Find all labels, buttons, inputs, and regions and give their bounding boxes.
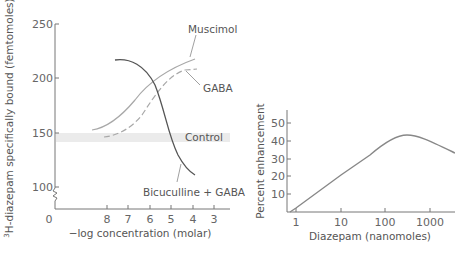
left-x-origin-label: 0	[46, 213, 53, 226]
right-x-tick-1: 1	[293, 216, 300, 229]
right-y-tick-50: 50	[271, 117, 285, 130]
right-y-tick-30: 30	[271, 153, 285, 166]
left-y-tick-250: 250	[32, 18, 53, 31]
right-x-axis-label: Diazepam (nanomoles)	[309, 230, 431, 242]
axis-break-icon	[53, 188, 57, 209]
diazepam-enhancement-curve	[290, 135, 455, 212]
right-x-tick-100: 100	[375, 216, 396, 229]
left-x-tick-6: 6	[147, 213, 154, 226]
left-y-tick-200: 200	[32, 72, 53, 85]
left-y-tick-100: 100	[32, 181, 53, 194]
bicuculline-gaba-label: Bicuculline + GABA	[143, 186, 246, 198]
gaba-curve	[104, 69, 197, 137]
right-x-tick-1000: 1000	[416, 216, 444, 229]
gaba-leader	[186, 71, 200, 85]
left-y-axis-label: 3H-diazepam specifically bound (femtomol…	[3, 0, 15, 238]
left-x-ticks	[107, 205, 214, 209]
left-x-axis-label: −log concentration (molar)	[69, 227, 212, 239]
left-x-tick-5: 5	[168, 213, 175, 226]
right-y-tick-20: 20	[271, 170, 285, 183]
muscimol-leader	[190, 35, 196, 57]
right-x-ticks	[296, 208, 430, 212]
left-y-tick-150: 150	[32, 127, 53, 140]
right-chart: 50 40 30 20 10 Percent enhancement 1 10 …	[254, 103, 455, 242]
right-y-tick-40: 40	[271, 135, 285, 148]
left-x-tick-8: 8	[104, 213, 111, 226]
left-x-tick-3: 3	[211, 213, 218, 226]
right-y-tick-10: 10	[271, 188, 285, 201]
control-label: Control	[185, 131, 223, 143]
right-y-ticks	[287, 123, 291, 194]
left-y-ticks	[55, 24, 59, 187]
left-x-tick-4: 4	[190, 213, 197, 226]
gaba-label: GABA	[203, 82, 234, 94]
bicuculline-leader	[177, 164, 181, 182]
left-x-tick-7: 7	[125, 213, 132, 226]
right-y-axis-label: Percent enhancement	[254, 103, 266, 218]
right-x-tick-10: 10	[334, 216, 348, 229]
left-chart: 250 200 150 100 3H-diazepam specifically…	[3, 0, 246, 239]
bicuculline-gaba-curve	[115, 60, 195, 175]
figure: 250 200 150 100 3H-diazepam specifically…	[0, 0, 455, 256]
muscimol-label: Muscimol	[188, 23, 237, 35]
